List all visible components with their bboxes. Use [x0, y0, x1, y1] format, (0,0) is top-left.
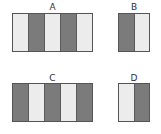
panel-d-label: D [118, 73, 150, 83]
panel-d-box [118, 83, 150, 122]
panel-c-box [12, 83, 93, 122]
stripe-light [28, 84, 44, 121]
stripe-light [119, 84, 134, 121]
stripe-light [76, 14, 92, 51]
stripe-dark [134, 84, 150, 121]
stripe-dark [13, 84, 28, 121]
panel-c-label: C [12, 73, 93, 83]
stripe-light [44, 14, 60, 51]
stripe-dark [60, 14, 76, 51]
stripe-light [134, 14, 150, 51]
stripe-light [60, 84, 76, 121]
panel-b-box [118, 13, 150, 52]
panel-a-label: A [12, 2, 93, 12]
stripe-light [13, 14, 28, 51]
stripe-dark [28, 14, 44, 51]
panel-a-box [12, 13, 93, 52]
panel-b-label: B [118, 2, 150, 12]
stripe-dark [76, 84, 92, 121]
stripe-dark [44, 84, 60, 121]
stripe-dark [119, 14, 134, 51]
